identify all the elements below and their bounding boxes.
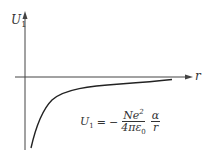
formula-equals: = [97,116,106,129]
fraction-1-denominator-text: 4πε [121,121,141,134]
fraction-1-numerator-sup: 2 [139,108,143,116]
fraction-2: α r [151,110,160,134]
fraction-1-numerator: Ne2 [122,107,145,122]
fraction-1: Ne2 4πε0 [120,107,147,138]
formula-lhs: U1 [80,115,94,130]
y-axis-label: U1 [11,13,26,29]
y-axis-label-main: U [11,13,21,27]
fraction-2-denominator: r [152,122,159,134]
formula-lhs-subscript: 1 [89,122,93,130]
fraction-1-denominator: 4πε0 [120,122,147,138]
x-axis-label: r [195,69,201,83]
formula-sign: − [109,116,118,129]
formula-lhs-symbol: U [80,115,89,128]
x-axis-arrow-icon [185,75,193,80]
fraction-1-denominator-sub: 0 [141,128,145,136]
y-axis-label-subscript: 1 [21,20,26,29]
formula: U1 = − Ne2 4πε0 α r [80,107,162,138]
